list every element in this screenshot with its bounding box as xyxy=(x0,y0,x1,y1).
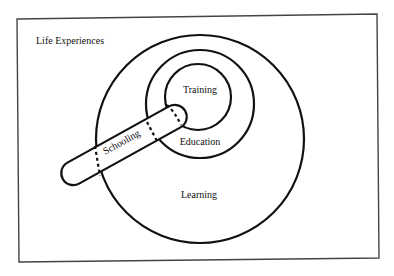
life-experiences-label: Life Experiences xyxy=(36,35,104,46)
training-label: Training xyxy=(183,84,217,95)
learning-label: Learning xyxy=(181,189,217,200)
education-label: Education xyxy=(180,136,221,147)
diagram-canvas: Life Experiences Training Education Lear… xyxy=(0,0,394,276)
